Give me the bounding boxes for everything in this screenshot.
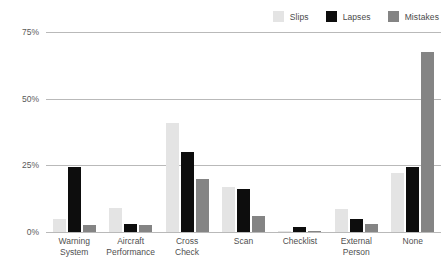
bar-slips[interactable] [222, 187, 235, 232]
bar-group [46, 32, 102, 232]
x-axis-category-label: Scan [215, 236, 271, 257]
bar-slips[interactable] [391, 173, 404, 232]
legend-swatch-slips [273, 11, 284, 22]
bar-mistakes[interactable] [196, 179, 209, 232]
category-label-line: Scan [216, 236, 270, 247]
bar-mistakes[interactable] [139, 225, 152, 232]
bar-lapses[interactable] [237, 189, 250, 232]
legend-label-mistakes: Mistakes [405, 12, 439, 22]
category-label-line: Checklist [273, 236, 327, 247]
category-label-line: System [47, 247, 101, 258]
bar-lapses[interactable] [406, 167, 419, 232]
x-axis-category-label: Checklist [272, 236, 328, 257]
bar-group [328, 32, 384, 232]
y-axis-tick-label: 75% [22, 27, 39, 37]
x-axis-category-label: ExternalPerson [328, 236, 384, 257]
bar-mistakes[interactable] [308, 231, 321, 232]
x-axis-category-label: AircraftPerformance [102, 236, 158, 257]
bar-group [272, 32, 328, 232]
category-label-line: None [386, 236, 440, 247]
bar-lapses[interactable] [350, 219, 363, 232]
category-label-line: Warning [47, 236, 101, 247]
category-label-line: Check [160, 247, 214, 258]
x-axis-category-label: CrossCheck [159, 236, 215, 257]
x-axis-category-label: None [385, 236, 441, 257]
bar-slips[interactable] [335, 209, 348, 232]
bar-mistakes[interactable] [365, 224, 378, 232]
bar-lapses[interactable] [293, 227, 306, 232]
bar-slips[interactable] [53, 219, 66, 232]
bar-mistakes[interactable] [252, 216, 265, 232]
bar-slips[interactable] [109, 208, 122, 232]
legend-swatch-mistakes [388, 11, 399, 22]
bar-lapses[interactable] [181, 152, 194, 232]
gridline-0: 0% [46, 232, 441, 233]
chart-legend: Slips Lapses Mistakes [273, 11, 439, 22]
bar-group [385, 32, 441, 232]
legend-item-slips: Slips [273, 11, 309, 22]
bar-groups [46, 32, 441, 232]
bar-mistakes[interactable] [83, 225, 96, 232]
category-label-line: Cross [160, 236, 214, 247]
bar-lapses[interactable] [124, 224, 137, 232]
bar-chart: Slips Lapses Mistakes 0%25%50%75% Warnin… [0, 0, 445, 273]
legend-item-lapses: Lapses [326, 11, 371, 22]
x-axis-labels: WarningSystemAircraftPerformanceCrossChe… [46, 236, 441, 257]
legend-item-mistakes: Mistakes [388, 11, 439, 22]
legend-label-slips: Slips [290, 12, 309, 22]
bar-group [159, 32, 215, 232]
bar-mistakes[interactable] [421, 52, 434, 232]
y-axis-tick-label: 25% [22, 160, 39, 170]
legend-swatch-lapses [326, 11, 337, 22]
category-label-line: Person [329, 247, 383, 258]
plot-area: 0%25%50%75% [46, 32, 441, 232]
y-axis-tick-label: 0% [27, 227, 39, 237]
bar-slips[interactable] [278, 231, 291, 232]
bar-group [215, 32, 271, 232]
x-axis-category-label: WarningSystem [46, 236, 102, 257]
category-label-line: Performance [103, 247, 157, 258]
category-label-line: External [329, 236, 383, 247]
y-axis-tick-label: 50% [22, 94, 39, 104]
legend-label-lapses: Lapses [343, 12, 371, 22]
category-label-line: Aircraft [103, 236, 157, 247]
bar-group [102, 32, 158, 232]
bar-slips[interactable] [166, 123, 179, 232]
bar-lapses[interactable] [68, 167, 81, 232]
